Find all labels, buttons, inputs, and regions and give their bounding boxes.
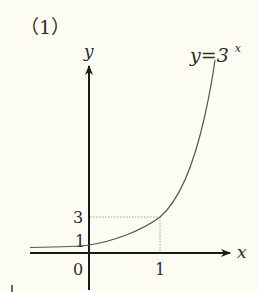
function-label: y=3 x	[189, 42, 242, 66]
x-axis-label: x	[237, 242, 247, 262]
x-tick-1: 1	[155, 260, 165, 279]
origin-label: 0	[73, 260, 83, 279]
y-tick-3: 3	[73, 208, 83, 227]
y-tick-1: 1	[75, 232, 85, 251]
function-label-base: y=3	[189, 44, 229, 66]
y-axis-label: y	[83, 41, 94, 61]
exponential-graph: （1） y x 0 1 3 1 y=3 x	[0, 0, 258, 292]
function-label-exponent: x	[235, 42, 242, 55]
exponential-curve	[30, 60, 215, 248]
graph-figure: （1） y x 0 1 3 1 y=3 x	[0, 0, 258, 292]
problem-label: （1）	[20, 16, 70, 38]
